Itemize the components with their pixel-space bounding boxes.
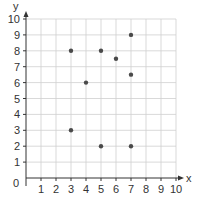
data-point xyxy=(69,49,73,53)
tick-marks xyxy=(23,19,176,181)
x-axis-label: x xyxy=(186,172,192,184)
x-tick-label: 9 xyxy=(158,183,164,195)
y-tick-label: 7 xyxy=(14,61,20,73)
x-tick-label: 3 xyxy=(68,183,74,195)
x-tick-label: 5 xyxy=(98,183,104,195)
origin-label: 0 xyxy=(13,177,19,189)
y-tick-label: 5 xyxy=(14,93,20,105)
data-point xyxy=(129,33,133,37)
y-tick-label: 8 xyxy=(14,45,20,57)
y-tick-label: 4 xyxy=(14,108,20,120)
x-tick-label: 7 xyxy=(128,183,134,195)
data-point xyxy=(99,144,103,148)
grid-lines xyxy=(26,19,176,178)
x-tick-label: 8 xyxy=(143,183,149,195)
y-tick-label: 1 xyxy=(14,156,20,168)
y-tick-label: 2 xyxy=(14,140,20,152)
x-tick-label: 10 xyxy=(170,183,182,195)
y-axis-label: y xyxy=(13,0,19,12)
data-point xyxy=(84,80,88,84)
data-point xyxy=(114,57,118,61)
y-tick-label: 9 xyxy=(14,29,20,41)
x-tick-label: 1 xyxy=(38,183,44,195)
y-tick-label: 10 xyxy=(8,13,20,25)
x-tick-label: 6 xyxy=(113,183,119,195)
x-axis-arrow-icon xyxy=(178,176,184,181)
data-point xyxy=(129,72,133,76)
y-axis-arrow-icon xyxy=(24,11,29,17)
tick-labels: 1234567891012345678910 xyxy=(8,13,182,195)
data-point xyxy=(99,49,103,53)
data-point xyxy=(69,128,73,132)
scatter-chart: 1234567891012345678910 x y 0 xyxy=(0,0,197,200)
x-tick-label: 4 xyxy=(83,183,89,195)
data-point xyxy=(129,144,133,148)
y-tick-label: 6 xyxy=(14,77,20,89)
y-tick-label: 3 xyxy=(14,124,20,136)
x-tick-label: 2 xyxy=(53,183,59,195)
